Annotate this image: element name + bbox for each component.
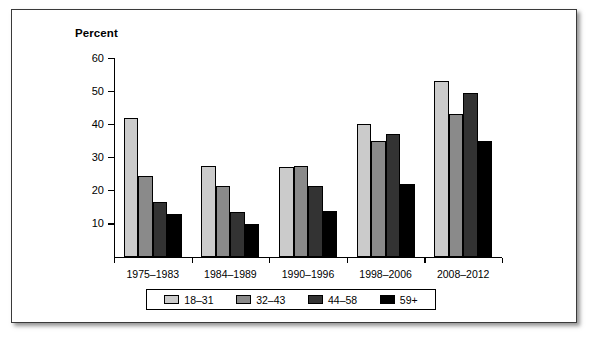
legend-swatch-3 <box>380 295 395 304</box>
y-tick-label-10: 10 <box>74 218 104 229</box>
legend-label-1: 32–43 <box>256 294 285 306</box>
bar-3-1 <box>371 141 386 257</box>
bar-2-3 <box>323 211 338 257</box>
x-axis-label-2: 1990–1996 <box>263 268 353 280</box>
bar-3-3 <box>400 184 415 257</box>
x-axis-label-1: 1984–1989 <box>185 268 275 280</box>
x-tick-mark-4 <box>424 258 425 263</box>
y-tick-mark-20 <box>108 190 114 191</box>
legend-swatch-0 <box>164 295 179 304</box>
y-tick-label-60: 60 <box>74 53 104 64</box>
chart-plot-area: Percent 102030405060 1975–19831984–19891… <box>12 10 578 324</box>
y-tick-label-30: 30 <box>74 152 104 163</box>
y-tick-mark-30 <box>108 157 114 158</box>
bar-1-3 <box>245 224 260 257</box>
y-tick-mark-40 <box>108 124 114 125</box>
bar-1-0 <box>201 166 216 257</box>
chart-legend: 18–3132–4344–5859+ <box>146 289 436 310</box>
y-axis-line <box>114 58 115 258</box>
bar-0-0 <box>124 118 139 257</box>
bar-2-0 <box>279 167 294 257</box>
y-tick-label-40: 40 <box>74 119 104 130</box>
legend-item-3[interactable]: 59+ <box>380 294 418 306</box>
bar-0-3 <box>167 214 182 257</box>
bar-1-2 <box>230 212 245 257</box>
x-axis-label-3: 1998–2006 <box>341 268 431 280</box>
y-tick-mark-50 <box>108 91 114 92</box>
x-tick-mark-2 <box>269 258 270 263</box>
bar-0-1 <box>138 176 153 257</box>
bar-4-0 <box>434 81 449 257</box>
y-tick-label-20: 20 <box>74 185 104 196</box>
x-axis-label-4: 2008–2012 <box>418 268 508 280</box>
legend-label-0: 18–31 <box>184 294 213 306</box>
x-tick-mark-end <box>502 258 503 263</box>
bar-4-2 <box>463 93 478 257</box>
bar-1-1 <box>216 186 231 257</box>
bar-4-1 <box>449 114 464 257</box>
y-tick-mark-10 <box>108 223 114 224</box>
bar-3-2 <box>386 134 401 257</box>
x-tick-mark-1 <box>192 258 193 263</box>
bar-2-1 <box>294 166 309 257</box>
y-tick-mark-60 <box>108 58 114 59</box>
x-tick-mark-0 <box>114 258 115 263</box>
x-axis-label-0: 1975–1983 <box>108 268 198 280</box>
y-axis-title: Percent <box>75 27 118 39</box>
bar-2-2 <box>308 186 323 257</box>
bar-3-0 <box>357 124 372 257</box>
legend-swatch-2 <box>308 295 323 304</box>
legend-item-0[interactable]: 18–31 <box>164 294 213 306</box>
bar-0-2 <box>153 202 168 257</box>
x-axis-line <box>114 257 502 258</box>
x-tick-mark-3 <box>347 258 348 263</box>
legend-label-3: 59+ <box>400 294 418 306</box>
legend-item-2[interactable]: 44–58 <box>308 294 357 306</box>
figure-frame: Percent 102030405060 1975–19831984–19891… <box>11 9 577 323</box>
y-tick-label-50: 50 <box>74 86 104 97</box>
legend-swatch-1 <box>236 295 251 304</box>
legend-label-2: 44–58 <box>328 294 357 306</box>
legend-item-1[interactable]: 32–43 <box>236 294 285 306</box>
bar-4-3 <box>478 141 493 257</box>
